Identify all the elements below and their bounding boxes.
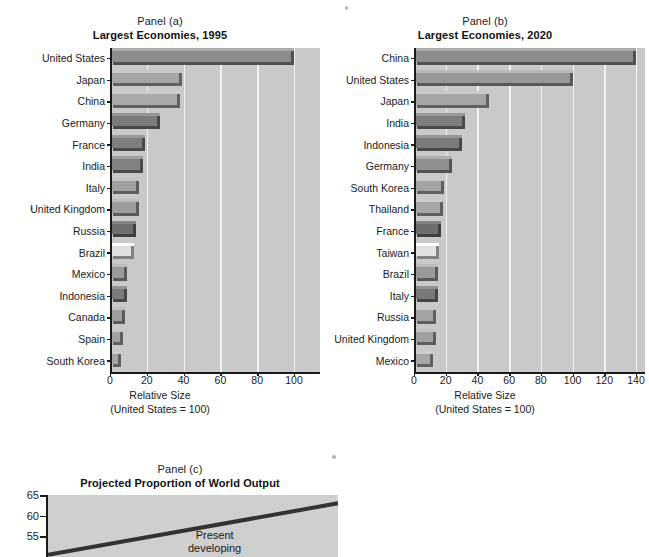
gridline [257,156,258,178]
bar [110,310,125,324]
bar-track [414,242,645,264]
gridline [509,221,510,243]
gridline [604,70,605,92]
bar-bottom-bevel [113,213,139,216]
plot-background [110,178,320,200]
gridline [184,221,185,243]
bar [110,138,145,152]
bar-track [414,156,645,178]
bar-category-label: Indonesia [0,291,110,302]
panel-b-title: Largest Economies, 2020 [325,28,645,43]
y-axis-line [110,178,112,200]
gridline [220,286,221,308]
bar-row: Brazil [325,264,645,286]
gridline [294,199,295,221]
gridline [573,329,574,351]
gridline [220,113,221,135]
gridline [220,178,221,200]
y-axis-line [110,307,112,329]
gridline [147,156,148,178]
bar-bottom-bevel [113,105,180,108]
gridline [147,350,148,372]
bar-row: Mexico [325,350,645,372]
gridline [477,264,478,286]
gridline [477,221,478,243]
x-tick-label: 20 [440,374,452,386]
bar-category-label: Canada [0,312,110,323]
gridline [541,134,542,156]
bar-top-bevel [110,199,139,202]
gridline [220,307,221,329]
panel-a: Panel (a) Largest Economies, 1995 United… [0,14,320,416]
bar-face [110,224,133,235]
y-axis-line [110,91,112,113]
gridline [636,134,637,156]
plot-background [110,350,320,372]
gridline [604,91,605,113]
plot-background [414,178,645,200]
x-tick-label: 140 [627,374,645,386]
bar-bottom-bevel [417,364,433,367]
gridline [184,91,185,113]
plot-background [414,350,645,372]
bar [414,94,489,108]
y-axis-line [414,242,416,264]
bar-category-label: France [0,140,110,151]
plot-background [110,286,320,308]
panel-c-y-tick-mark [40,495,47,497]
x-tick-label: 80 [535,374,547,386]
bar-category-label: Italy [0,183,110,194]
bar-category-label: Taiwan [325,248,414,259]
gridline [220,329,221,351]
gridline [147,307,148,329]
bar-track [414,134,645,156]
bar-row: China [325,48,645,70]
bar-face [110,138,142,149]
bar-bottom-bevel [417,170,452,173]
bar-bottom-bevel [113,256,134,259]
bar-bottom-bevel [417,83,573,86]
gridline [257,178,258,200]
y-axis-line [414,156,416,178]
gridline [636,350,637,372]
bar-top-bevel [414,91,489,94]
gridline [541,113,542,135]
gridline [294,350,295,372]
bar-row: India [325,113,645,135]
gridline [257,264,258,286]
bar-row: Brazil [0,242,320,264]
panel-c-y-tick-label: 60 [27,510,39,522]
bar-track [110,70,320,92]
gridline [541,242,542,264]
panel-a-xlabel-1: Relative Size [0,389,320,402]
bar-category-label: India [0,161,110,172]
bar-top-bevel [110,178,139,181]
panel-b: Panel (b) Largest Economies, 2020 ChinaU… [325,14,645,416]
bar [110,332,123,346]
bar-bottom-bevel [113,191,139,194]
bar-row: France [325,221,645,243]
bar-category-label: Russia [0,226,110,237]
bar-track [110,350,320,372]
bar-top-bevel [414,156,452,159]
bar-face [414,202,440,213]
gridline [294,329,295,351]
gridline [541,286,542,308]
bar-row: India [0,156,320,178]
bar-row: Germany [0,113,320,135]
bar-top-bevel [110,70,182,73]
bar-category-label: Russia [325,312,414,323]
bar-track [110,329,320,351]
bar-face [110,116,157,127]
gridline [604,264,605,286]
gridline [294,242,295,264]
gridline [573,156,574,178]
gridline [509,350,510,372]
plot-background [110,199,320,221]
bar-track [414,350,645,372]
bar-bottom-bevel [113,234,136,237]
bar [414,159,452,173]
y-axis-line [110,113,112,135]
x-tick-label: 120 [596,374,614,386]
